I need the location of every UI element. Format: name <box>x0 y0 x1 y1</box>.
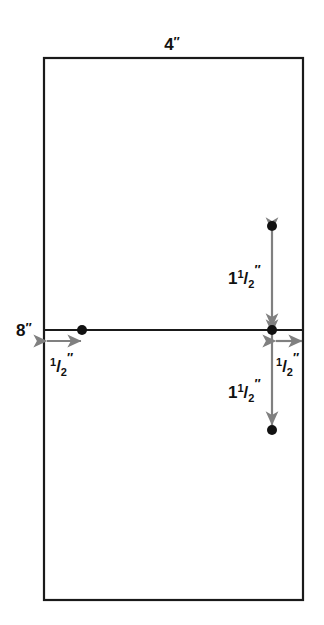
left-offset-unit: ″ <box>67 350 73 365</box>
top-width-unit: ″ <box>174 34 180 49</box>
right-offset-unit: ″ <box>293 350 299 365</box>
left-height-value: 8 <box>16 321 25 340</box>
dimensioned-rectangle-diagram: 4″ 8″ 1/2″ 1/2″ 11/2″ 11/2″ <box>0 0 324 625</box>
left-hole-point <box>77 325 87 335</box>
upper-spacing-unit: ″ <box>254 262 260 277</box>
top-hole-point <box>267 221 277 231</box>
lower-spacing-whole: 1 <box>228 383 237 402</box>
diagram-background <box>0 0 324 625</box>
right-offset-denominator: 2 <box>287 366 293 378</box>
technical-drawing-canvas: 4″ 8″ 1/2″ 1/2″ 11/2″ 11/2″ <box>0 0 324 625</box>
lower-spacing-denominator: 2 <box>248 392 254 404</box>
center-hole-point <box>267 325 277 335</box>
left-height-unit: ″ <box>25 320 31 335</box>
left-offset-denominator: 2 <box>61 366 67 378</box>
bottom-hole-point <box>267 425 277 435</box>
upper-spacing-whole: 1 <box>228 269 237 288</box>
lower-spacing-unit: ″ <box>254 376 260 391</box>
upper-spacing-denominator: 2 <box>248 278 254 290</box>
